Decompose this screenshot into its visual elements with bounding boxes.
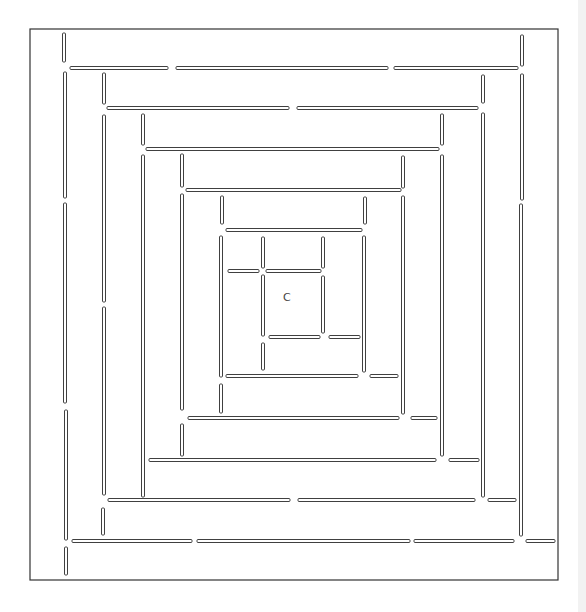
maze-wall-vertical bbox=[402, 196, 405, 414]
maze-outer-frame bbox=[30, 29, 558, 580]
maze-wall-vertical bbox=[220, 384, 223, 413]
maze-wall-horizontal bbox=[186, 189, 401, 192]
maze-wall-horizontal bbox=[228, 270, 259, 273]
maze-wall-vertical bbox=[142, 114, 145, 145]
maze-wall-vertical bbox=[521, 35, 524, 66]
maze-wall-horizontal bbox=[197, 540, 410, 543]
maze-wall-vertical bbox=[262, 343, 265, 370]
maze-wall-horizontal bbox=[176, 67, 388, 70]
maze-wall-vertical bbox=[181, 424, 184, 456]
maze-wall-vertical bbox=[142, 155, 145, 497]
maze-wall-vertical bbox=[482, 113, 485, 497]
maze-wall-vertical bbox=[402, 156, 405, 188]
maze-wall-horizontal bbox=[226, 229, 362, 232]
maze-wall-vertical bbox=[520, 204, 523, 536]
maze-wall-vertical bbox=[103, 73, 106, 104]
maze-wall-vertical bbox=[64, 72, 67, 198]
maze-wall-vertical bbox=[103, 307, 106, 495]
maze-walls bbox=[63, 33, 556, 575]
maze-wall-horizontal bbox=[370, 375, 398, 378]
maze-wall-vertical bbox=[262, 275, 265, 336]
maze-wall-vertical bbox=[221, 196, 224, 224]
maze-wall-vertical bbox=[181, 194, 184, 410]
maze-wall-vertical bbox=[220, 236, 223, 377]
maze-wall-vertical bbox=[102, 508, 105, 535]
maze-wall-horizontal bbox=[149, 459, 436, 462]
maze-wall-vertical bbox=[441, 155, 444, 456]
maze-wall-horizontal bbox=[188, 417, 399, 420]
maze-wall-vertical bbox=[65, 410, 68, 540]
maze-wall-vertical bbox=[322, 276, 325, 333]
maze-wall-horizontal bbox=[146, 148, 439, 151]
maze-wall-horizontal bbox=[266, 270, 321, 273]
maze-wall-horizontal bbox=[449, 459, 479, 462]
maze-wall-horizontal bbox=[411, 417, 437, 420]
maze-wall-vertical bbox=[482, 75, 485, 103]
maze-wall-horizontal bbox=[269, 336, 320, 339]
maze-wall-vertical bbox=[441, 114, 444, 145]
maze-wall-horizontal bbox=[297, 107, 478, 110]
maze-center-label: C bbox=[283, 291, 291, 304]
maze-wall-horizontal bbox=[526, 540, 555, 543]
maze-wall-vertical bbox=[64, 203, 67, 403]
maze-wall-horizontal bbox=[107, 107, 289, 110]
maze-wall-vertical bbox=[65, 547, 68, 575]
maze-wall-vertical bbox=[322, 237, 325, 268]
maze-wall-vertical bbox=[63, 33, 66, 62]
maze-wall-horizontal bbox=[488, 499, 516, 502]
maze-wall-horizontal bbox=[329, 336, 360, 339]
maze-wall-horizontal bbox=[414, 540, 514, 543]
maze-wall-vertical bbox=[363, 236, 366, 372]
maze-wall-vertical bbox=[181, 154, 184, 187]
maze-wall-horizontal bbox=[226, 375, 358, 378]
maze-wall-horizontal bbox=[394, 67, 518, 70]
maze-wall-vertical bbox=[262, 237, 265, 268]
maze-wall-horizontal bbox=[108, 499, 290, 502]
maze-wall-horizontal bbox=[70, 67, 168, 70]
maze-wall-vertical bbox=[103, 115, 106, 302]
maze-diagram bbox=[0, 0, 586, 612]
maze-wall-horizontal bbox=[298, 499, 475, 502]
maze-wall-vertical bbox=[521, 74, 524, 200]
maze-wall-horizontal bbox=[72, 540, 192, 543]
maze-wall-vertical bbox=[364, 197, 367, 224]
